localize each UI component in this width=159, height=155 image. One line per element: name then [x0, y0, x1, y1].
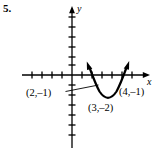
point-label-left: (2,–1): [26, 87, 51, 98]
graph-figure: 5.: [0, 0, 159, 155]
point-label-vertex: (3,–2): [88, 102, 113, 113]
x-axis-label: x: [147, 77, 151, 87]
parabola-left-arrowhead: [87, 62, 93, 71]
parabola-right-arrowhead: [124, 61, 130, 70]
y-axis-label: y: [77, 4, 81, 14]
y-axis-arrowhead: [69, 6, 75, 13]
point-label-right: (4,–1): [119, 86, 144, 97]
coordinate-plane: [0, 0, 159, 155]
leader-line: [66, 85, 99, 92]
